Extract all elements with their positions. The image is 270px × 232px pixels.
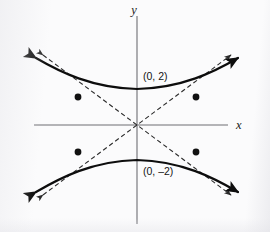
point-upper-left	[75, 94, 82, 101]
point-lower-left	[75, 149, 82, 156]
upper-vertex-label: (0, 2)	[143, 70, 168, 82]
hyperbola-figure: y x (0, 2) (0, –2)	[0, 0, 270, 232]
graph-canvas: y x (0, 2) (0, –2)	[0, 0, 270, 232]
x-axis-label: x	[235, 118, 242, 132]
lower-vertex-label: (0, –2)	[143, 165, 173, 177]
point-lower-right	[193, 149, 200, 156]
point-upper-right	[193, 94, 200, 101]
y-axis-label: y	[129, 3, 137, 17]
